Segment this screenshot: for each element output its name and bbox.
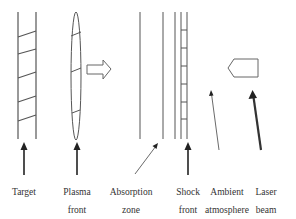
ambient-atmosphere-arrow-icon <box>209 90 219 150</box>
label-plasma-front-line2: front <box>63 205 90 216</box>
laser-source-icon <box>228 59 258 77</box>
shock-front-ladder <box>181 12 187 139</box>
plasma-front-arrow-icon <box>74 142 81 175</box>
label-laser-beam-line2: beam <box>255 205 276 216</box>
expansion-arrow-icon <box>87 60 111 79</box>
label-laser-beam: Laser beam <box>255 187 276 216</box>
label-absorption-zone-line2: zone <box>110 205 153 216</box>
label-plasma-front-line1: Plasma <box>63 187 90 198</box>
laser-beam-arrow-icon <box>249 90 262 150</box>
target-arrow-icon <box>21 142 28 175</box>
diagram: Target Plasma front Absorption zone Shoc… <box>0 0 296 219</box>
absorption-zone-lines <box>140 12 175 139</box>
label-ambient-atmosphere-line1: Ambient <box>205 187 249 198</box>
label-shock-front-line2: front <box>176 205 200 216</box>
absorption-zone-arrow-icon <box>135 143 158 174</box>
label-plasma-front: Plasma front <box>63 187 90 216</box>
label-shock-front-line1: Shock <box>176 187 200 198</box>
label-ambient-atmosphere: Ambient atmosphere <box>205 187 249 216</box>
label-absorption-zone-line1: Absorption <box>110 187 153 198</box>
label-shock-front: Shock front <box>176 187 200 216</box>
label-target: Target <box>12 187 36 198</box>
target-slab <box>18 12 36 139</box>
label-target-line1: Target <box>12 187 36 198</box>
plasma-front-ellipse <box>71 12 81 140</box>
label-absorption-zone: Absorption zone <box>110 187 153 216</box>
label-laser-beam-line1: Laser <box>255 187 276 198</box>
shock-front-arrow-icon <box>185 142 192 175</box>
label-ambient-atmosphere-line2: atmosphere <box>205 205 249 216</box>
